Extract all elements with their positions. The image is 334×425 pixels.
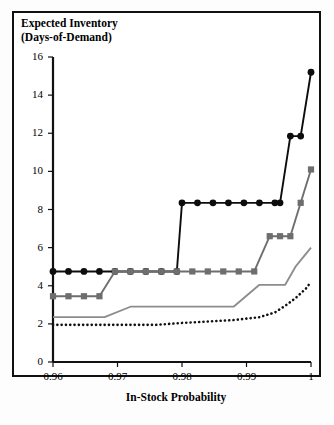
gray-square-series-marker [127,268,133,274]
gray-square-series-marker [251,268,257,274]
black-circle-series-marker [81,268,88,275]
gray-solid-line-series-line [53,248,311,318]
gray-square-series-marker [277,233,283,239]
black-circle-series-marker [210,199,217,206]
x-axis-tick-label: 0.98 [162,370,202,382]
black-circle-series-line [53,72,311,271]
chart-figure: Expected Inventory(Days-of-Demand) 02468… [0,0,334,425]
y-axis-tick-label: 14 [17,88,43,100]
gray-square-series-marker [158,268,164,274]
gray-square-series-marker [298,200,304,206]
gray-square-series-line [53,169,311,296]
y-axis-tick-label: 10 [17,164,43,176]
gray-square-series-marker [267,233,273,239]
x-axis-tick-label: 1 [291,370,331,382]
black-circle-series-marker [50,268,57,275]
black-circle-series-marker [297,133,304,140]
black-circle-series-marker [256,199,263,206]
gray-square-series-marker [50,293,56,299]
gray-square-series-marker [143,268,149,274]
black-circle-series-marker [308,69,315,76]
black-circle-series-marker [225,199,232,206]
y-axis-tick-label: 8 [17,203,43,215]
y-axis-tick-label: 2 [17,317,43,329]
gray-square-series-marker [287,233,293,239]
y-axis-tick-label: 6 [17,241,43,253]
gray-square-series-marker [65,293,71,299]
y-axis-tick-label: 4 [17,279,43,291]
gray-square-series-marker [96,293,102,299]
chart-plot-area [0,0,334,425]
black-circle-series-marker [179,199,186,206]
y-axis-tick-label: 12 [17,126,43,138]
black-dotted-line-series-line [53,282,311,325]
gray-square-series-marker [112,268,118,274]
gray-square-series-marker [81,293,87,299]
black-circle-series-marker [287,133,294,140]
gray-square-series-marker [189,268,195,274]
gray-square-series-marker [220,268,226,274]
y-axis-tick-label: 0 [17,355,43,367]
gray-square-series-marker [236,268,242,274]
black-circle-series-marker [277,199,284,206]
black-circle-series-marker [194,199,201,206]
gray-square-series-marker [205,268,211,274]
black-circle-series-marker [241,199,248,206]
y-axis-tick-label: 16 [17,50,43,62]
x-axis-title: In-Stock Probability [96,391,256,403]
gray-square-series-marker [174,268,180,274]
black-circle-series-marker [96,268,103,275]
x-axis-tick-label: 0.96 [33,370,73,382]
x-axis-tick-label: 0.99 [227,370,267,382]
gray-square-series-marker [308,166,314,172]
x-axis-tick-label: 0.97 [98,370,138,382]
black-circle-series-marker [65,268,72,275]
